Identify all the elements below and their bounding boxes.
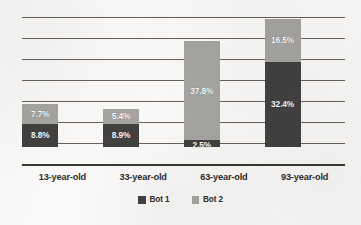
x-axis-category-labels: 13-year-old 33-year-old 63-year-old 93-y…: [22, 168, 345, 186]
x-axis-line: [22, 164, 345, 166]
bar-stack: 7.7% 8.8%: [22, 104, 58, 147]
bar-group-13-year-old: 7.7% 8.8%: [0, 0, 81, 147]
bar-segment-bot2[interactable]: 16.5%: [265, 19, 301, 62]
bar-value-label: 37.8%: [190, 87, 213, 95]
legend-swatch-icon: [138, 196, 146, 204]
bar-segment-bot1[interactable]: 8.9%: [103, 124, 139, 147]
bar-stack: 37.8% 2.5%: [184, 41, 220, 147]
bar-value-label: 5.4%: [112, 112, 131, 120]
category-label-13-year-old: 13-year-old: [22, 168, 103, 186]
bar-segment-bot1[interactable]: 32.4%: [265, 62, 301, 147]
legend-label: Bot 2: [203, 196, 223, 204]
bar-group-33-year-old: 5.4% 8.9%: [81, 0, 162, 147]
legend-item-bot-2[interactable]: Bot 2: [192, 196, 223, 204]
chart-legend: Bot 1 Bot 2: [0, 196, 361, 204]
bar-group-63-year-old: 37.8% 2.5%: [162, 0, 243, 147]
legend-item-bot-1[interactable]: Bot 1: [138, 196, 169, 204]
bar-segment-bot2[interactable]: 7.7%: [22, 104, 58, 124]
bar-value-label: 32.4%: [271, 100, 294, 108]
legend-label: Bot 1: [150, 196, 170, 204]
bar-value-label: 8.9%: [112, 131, 131, 139]
category-label-33-year-old: 33-year-old: [103, 168, 184, 186]
bar-segment-bot1[interactable]: 2.5%: [184, 140, 220, 147]
category-label-93-year-old: 93-year-old: [264, 168, 345, 186]
bar-value-label: 7.7%: [31, 110, 50, 118]
legend-swatch-icon: [192, 196, 200, 204]
bar-stack: 16.5% 32.4%: [265, 19, 301, 147]
bar-segment-bot2[interactable]: 37.8%: [184, 41, 220, 140]
bar-segment-bot1[interactable]: 8.8%: [22, 124, 58, 147]
bar-segment-bot2[interactable]: 5.4%: [103, 109, 139, 123]
bar-value-label: 2.5%: [193, 141, 212, 149]
bar-value-label: 16.5%: [271, 36, 294, 44]
category-label-63-year-old: 63-year-old: [184, 168, 265, 186]
bar-stack: 5.4% 8.9%: [103, 109, 139, 147]
bar-value-label: 8.8%: [31, 131, 50, 139]
stacked-bar-chart: 7.7% 8.8% 5.4% 8.9% 37.8%: [0, 0, 361, 225]
bar-group-93-year-old: 16.5% 32.4%: [242, 0, 323, 147]
bars-layer: 7.7% 8.8% 5.4% 8.9% 37.8%: [0, 0, 323, 147]
